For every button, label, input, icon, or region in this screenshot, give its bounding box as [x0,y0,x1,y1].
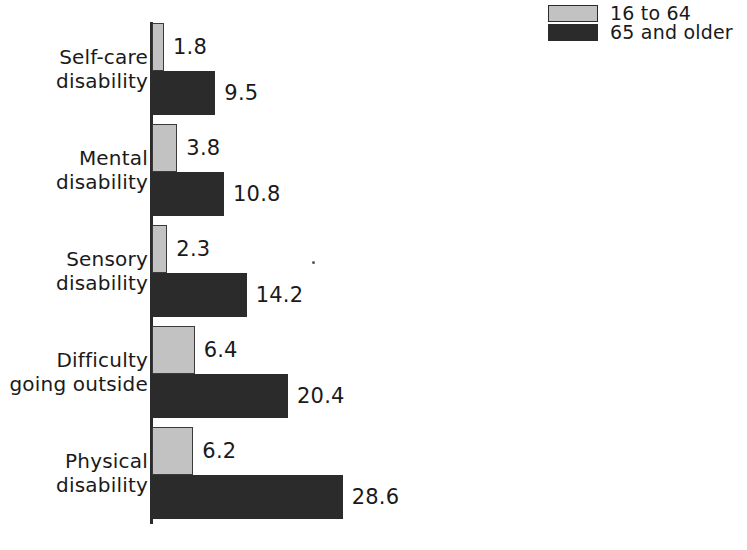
category-label-line: Mental [0,146,148,170]
bar-16-to-64 [152,124,177,172]
scan-speck-artifact [312,261,315,264]
category-label: Sensorydisability [0,247,148,295]
bar-65-and-older [152,172,224,216]
bar-16-to-64 [152,427,193,475]
chart-legend: 16 to 64 65 and older [548,4,738,42]
bar-value-label: 6.2 [202,441,236,462]
legend-swatch-icon-16-to-64 [548,5,598,22]
bar-chart: Self-caredisability1.89.5Mentaldisabilit… [0,0,747,550]
category-label: Difficultygoing outside [0,348,148,396]
bar-group: Physicaldisability6.228.6 [0,427,747,519]
legend-item-65-and-older: 65 and older [548,23,738,42]
bar-group: Sensorydisability2.314.2 [0,225,747,317]
bar-65-and-older [152,374,288,418]
bar-16-to-64 [152,225,167,273]
bar-row-65-and-older: 20.4 [152,374,345,418]
legend-swatch-icon-65-and-older [548,24,598,41]
category-label-line: Difficulty [0,348,148,372]
category-label-line: disability [0,473,148,497]
category-label-line: going outside [0,372,148,396]
bar-group: Difficultygoing outside6.420.4 [0,326,747,418]
bar-row-65-and-older: 14.2 [152,273,303,317]
bar-value-label: 1.8 [173,37,207,58]
category-label-line: disability [0,69,148,93]
bar-65-and-older [152,475,343,519]
category-label: Physicaldisability [0,449,148,497]
bar-value-label: 2.3 [176,239,210,260]
category-label-line: disability [0,170,148,194]
bar-value-label: 20.4 [297,386,345,407]
bar-value-label: 3.8 [186,138,220,159]
bar-value-label: 6.4 [204,340,238,361]
bar-value-label: 28.6 [352,487,400,508]
bar-65-and-older [152,273,247,317]
category-label: Self-caredisability [0,45,148,93]
bar-value-label: 9.5 [224,83,258,104]
bar-16-to-64 [152,23,164,71]
bar-row-65-and-older: 10.8 [152,172,281,216]
bar-value-label: 10.8 [233,184,281,205]
bar-value-label: 14.2 [256,285,304,306]
bar-group: Mentaldisability3.810.8 [0,124,747,216]
bar-65-and-older [152,71,215,115]
category-label-line: Self-care [0,45,148,69]
bar-row-16-to-64: 3.8 [152,124,220,172]
bar-row-16-to-64: 6.4 [152,326,238,374]
bar-row-16-to-64: 1.8 [152,23,207,71]
category-label-line: Physical [0,449,148,473]
bar-16-to-64 [152,326,195,374]
category-label: Mentaldisability [0,146,148,194]
category-label-line: Sensory [0,247,148,271]
legend-label-65-and-older: 65 and older [610,23,733,42]
category-label-line: disability [0,271,148,295]
bar-row-16-to-64: 2.3 [152,225,210,273]
bar-row-65-and-older: 28.6 [152,475,399,519]
bar-row-65-and-older: 9.5 [152,71,258,115]
bar-row-16-to-64: 6.2 [152,427,236,475]
